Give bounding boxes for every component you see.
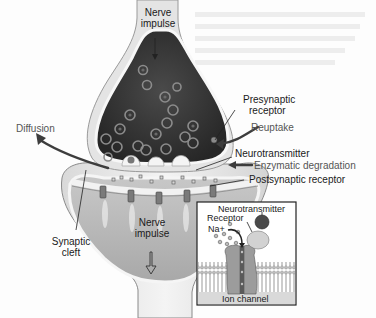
label-line: cleft [48,247,94,258]
label-line: Synaptic [48,236,94,247]
synapse-illustration [0,0,376,318]
postsynaptic-receptor-label: Postsynaptic receptor [249,174,345,185]
neurotransmitter-label: Neurotransmitter [235,148,309,159]
label-line: Presynaptic [243,94,295,105]
background-bleed-text [195,12,365,65]
nerve-impulse-bottom-label: Nerve impulse [132,217,172,239]
inset-sodium-label: Na+ [208,224,225,234]
label-line: receptor [243,105,295,116]
diffusion-label: Diffusion [16,123,55,134]
synapse-diagram: Nerve impulse Presynaptic receptor Reupt… [0,0,376,318]
label-line: impulse [132,228,172,239]
label-line: impulse [140,18,176,29]
reuptake-label: Reuptake [251,122,294,133]
presynaptic-receptor-label: Presynaptic receptor [243,94,295,116]
nerve-impulse-top-label: Nerve impulse [140,7,176,29]
label-line: Nerve [140,7,176,18]
label-line: Nerve [132,217,172,228]
inset-ion-channel-label: Ion channel [222,294,269,304]
enzymatic-degradation-label: Enzymatic degradation [254,160,356,171]
inset-receptor-label: Receptor [207,213,244,223]
synaptic-cleft-label: Synaptic cleft [48,236,94,258]
